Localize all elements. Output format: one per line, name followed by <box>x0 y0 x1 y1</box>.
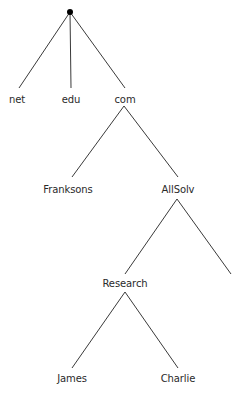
node-james: James <box>57 373 87 385</box>
edge-allsolv-unlabeled <box>177 199 231 274</box>
edge-com-franksons <box>72 106 124 177</box>
edge-root-com <box>70 12 125 88</box>
node-com: com <box>114 94 135 106</box>
root-node-dot <box>67 9 73 15</box>
edge-com-allsolv <box>124 106 178 177</box>
node-edu: edu <box>62 94 81 106</box>
domain-tree-diagram: net edu com Franksons AllSolv Research J… <box>0 0 243 395</box>
node-allsolv: AllSolv <box>162 184 195 196</box>
tree-edges <box>0 0 243 395</box>
node-franksons: Franksons <box>43 184 92 196</box>
node-charlie: Charlie <box>161 373 196 385</box>
edge-root-edu <box>70 12 71 88</box>
edge-allsolv-research <box>125 199 177 274</box>
edge-research-james <box>72 292 125 368</box>
node-research: Research <box>102 278 147 290</box>
edge-research-charlie <box>125 292 178 368</box>
node-net: net <box>9 94 25 106</box>
edge-root-net <box>19 12 70 88</box>
